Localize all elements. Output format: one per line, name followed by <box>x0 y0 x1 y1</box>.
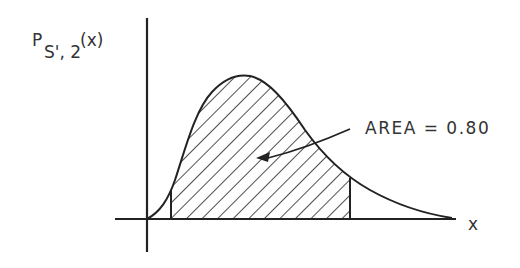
y-axis-label-argument: (x) <box>80 30 103 50</box>
y-axis-label: P <box>32 30 42 50</box>
area-annotation: AREA = 0.80 <box>365 118 490 138</box>
x-axis-label: x <box>468 214 478 234</box>
y-axis-label-subscript: S', 2 <box>44 42 81 62</box>
shaded-region <box>147 76 452 219</box>
density-diagram: P S', 2 (x) AREA = 0.80 x <box>0 0 520 268</box>
